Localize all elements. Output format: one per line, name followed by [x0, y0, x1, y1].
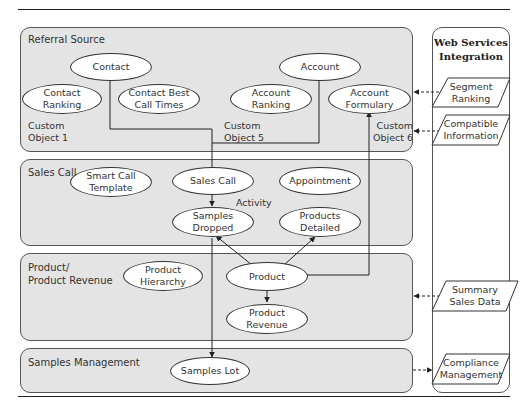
node-appointment[interactable]: Appointment [279, 167, 361, 195]
node-account-ranking[interactable]: Account Ranking [230, 84, 312, 114]
label-activity: Activity [236, 197, 272, 209]
connector-product-detailed [284, 237, 315, 265]
lane-title-samples-management: Samples Management [28, 356, 140, 369]
lane-title-sales-call: Sales Call [28, 166, 76, 179]
node-smart-call-template[interactable]: Smart Call Template [70, 167, 152, 197]
node-product-revenue[interactable]: Product Revenue [226, 304, 308, 334]
node-product[interactable]: Product [226, 262, 308, 291]
node-contact-best-call-times[interactable]: Contact Best Call Times [118, 84, 200, 114]
ws-segment-ranking[interactable]: Segment Ranking [436, 78, 506, 107]
label-custom-object-1: Custom Object 1 [28, 120, 68, 144]
node-account-formulary[interactable]: Account Formulary [328, 84, 411, 114]
node-contact[interactable]: Contact [70, 53, 152, 81]
label-custom-object-6: Custom Object 6 [373, 120, 413, 144]
node-samples-dropped[interactable]: Samples Dropped [172, 207, 254, 237]
node-product-hierarchy[interactable]: Product Hierarchy [123, 261, 203, 291]
node-account[interactable]: Account [279, 53, 361, 81]
lane-title-referral-source: Referral Source [28, 33, 105, 46]
ws-compatible-information[interactable]: Compatible Information [436, 115, 506, 145]
node-contact-ranking[interactable]: Contact Ranking [22, 84, 102, 114]
lane-title-product: Product/ Product Revenue [28, 261, 113, 287]
node-samples-lot[interactable]: Samples Lot [170, 357, 250, 385]
ws-compliance-management[interactable]: Compliance Management [436, 354, 506, 384]
label-custom-object-5: Custom Object 5 [224, 120, 264, 144]
ws-summary-sales-data[interactable]: Summary Sales Data [438, 281, 512, 311]
node-products-detailed[interactable]: Products Detailed [279, 207, 361, 237]
connector-product-samples [216, 236, 252, 265]
node-sales-call[interactable]: Sales Call [172, 167, 254, 195]
